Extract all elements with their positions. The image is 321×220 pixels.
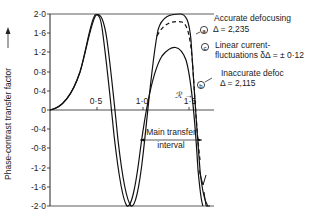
y-tick-label: 0·8 (34, 67, 47, 77)
svg-text:Δ = 2,235: Δ = 2,235 (213, 24, 249, 34)
svg-text:Accurate defocusing: Accurate defocusing (214, 13, 291, 23)
annotation-inaccurate: Inaccurate defoc Δ = 2,115 (220, 68, 285, 88)
y-tick-label: 1·2 (34, 47, 47, 57)
curve-tail-strands (199, 170, 210, 206)
marker-c: c (201, 43, 208, 50)
y-tick-label: -1·2 (31, 163, 46, 173)
main-transfer-interval: Main transfer interval (140, 127, 202, 150)
x-tick-label: 1·0 (136, 96, 149, 106)
y-tick-label: -1·6 (31, 182, 46, 192)
y-axis-label-group: Phase-contrast transfer factor (3, 27, 13, 180)
y-tick-label: 2·0 (34, 9, 47, 19)
r-arrow-label: ℛ → (175, 90, 193, 100)
y-tick-label: -2·0 (31, 201, 46, 211)
annotation-accurate: Accurate defocusing Δ = 2,235 (213, 13, 291, 34)
y-axis-label: Phase-contrast transfer factor (3, 68, 13, 180)
svg-text:Main transfer: Main transfer (146, 127, 196, 137)
marker-b: b (197, 78, 212, 89)
arrowhead-icon (6, 27, 11, 34)
svg-text:Inaccurate defoc: Inaccurate defoc (221, 68, 285, 78)
y-tick-label: -0·8 (31, 143, 46, 153)
y-tick-label: -0·4 (31, 124, 46, 134)
svg-text:fluctuations δΔ = ± 0·12: fluctuations δΔ = ± 0·12 (215, 50, 304, 60)
svg-text:Δ = 2,115: Δ = 2,115 (220, 78, 256, 88)
svg-text:interval: interval (157, 140, 185, 150)
y-tick-label: 0 (41, 105, 46, 115)
y-tick-labels: 2·0 1·6 1·2 0·8 0·4 0 -0·4 -0·8 -1·2 -1·… (31, 9, 46, 211)
y-tick-label: 1·6 (34, 28, 47, 38)
svg-text:c: c (204, 45, 207, 51)
svg-text:Linear current-: Linear current- (215, 40, 270, 50)
annotation-fluctuations: Linear current- fluctuations δΔ = ± 0·12 (215, 40, 304, 60)
interval-right-arrow-icon (198, 139, 202, 142)
x-tick-label: 0·5 (90, 96, 103, 106)
marker-a: a (196, 26, 208, 34)
y-tick-label: 0·4 (34, 86, 47, 96)
phase-contrast-chart: 2·0 1·6 1·2 0·8 0·4 0 -0·4 -0·8 -1·2 -1·… (0, 0, 321, 220)
